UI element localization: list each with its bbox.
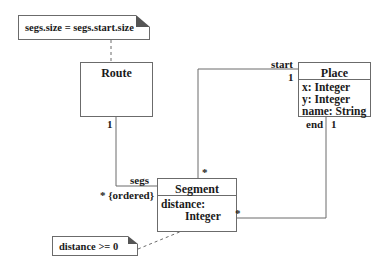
- start-role-label: start: [271, 58, 293, 70]
- note-text: segs.size = segs.start.size: [25, 22, 134, 33]
- segs-multiplicity: * {ordered}: [100, 189, 154, 201]
- attribute-list: distance: Integer: [158, 196, 236, 224]
- class-segment[interactable]: Segment distance: Integer: [157, 178, 237, 232]
- start-place-multiplicity: 1: [288, 71, 294, 83]
- class-route[interactable]: Route: [80, 62, 153, 117]
- note-fold-icon: [128, 236, 138, 244]
- association-segment-end: [237, 116, 326, 218]
- note-fold-icon: [136, 15, 150, 27]
- class-name: Segment: [158, 179, 236, 195]
- note-text: distance >= 0: [59, 241, 118, 252]
- route-multiplicity: 1: [107, 118, 113, 130]
- end-role-label: end: [306, 118, 323, 130]
- end-place-multiplicity: 1: [331, 118, 337, 130]
- attribute: distance:: [161, 198, 233, 210]
- association-segment-start: [198, 69, 298, 178]
- constraint-note-route: segs.size = segs.start.size: [18, 15, 150, 40]
- class-place[interactable]: Place x: Integer y: Integer name: String: [298, 62, 371, 117]
- note-anchor-segment: [138, 231, 182, 249]
- attribute: y: Integer: [302, 93, 367, 105]
- attribute: name: String: [302, 105, 367, 117]
- class-name: Route: [81, 63, 152, 80]
- attribute-type: Integer: [161, 210, 233, 222]
- attribute-list: x: Integer y: Integer name: String: [299, 80, 370, 119]
- constraint-note-segment: distance >= 0: [52, 236, 138, 256]
- attribute: x: Integer: [302, 81, 367, 93]
- start-segment-multiplicity: *: [202, 166, 208, 178]
- class-name: Place: [299, 63, 370, 79]
- segs-role-label: segs: [130, 174, 149, 186]
- end-segment-multiplicity: *: [235, 207, 241, 219]
